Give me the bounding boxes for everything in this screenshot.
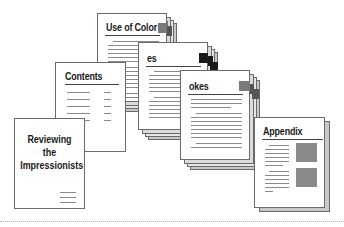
title-underline bbox=[105, 35, 160, 36]
page-title: Use of Color bbox=[106, 21, 157, 33]
text-line bbox=[269, 171, 289, 172]
toc-entry bbox=[67, 113, 90, 114]
page-chapter-okes: okes bbox=[180, 70, 250, 160]
page-title: es bbox=[147, 52, 157, 64]
text-line bbox=[196, 113, 242, 114]
image-placeholder bbox=[296, 168, 317, 187]
text-line bbox=[60, 202, 76, 203]
section-tab bbox=[239, 81, 250, 91]
text-line bbox=[196, 143, 242, 144]
text-line bbox=[60, 197, 76, 198]
text-line bbox=[60, 192, 76, 193]
text-line bbox=[265, 161, 289, 162]
text-line bbox=[191, 125, 242, 126]
page-title: Contents bbox=[65, 70, 102, 82]
image-placeholder bbox=[296, 143, 317, 162]
text-line bbox=[191, 99, 242, 100]
text-line bbox=[265, 149, 289, 150]
page-cover: Reviewing the Impressionists bbox=[14, 118, 85, 209]
text-line bbox=[265, 165, 283, 166]
title-underline bbox=[188, 94, 243, 95]
toc-page-number bbox=[104, 113, 111, 114]
text-line bbox=[191, 107, 231, 108]
toc-entry bbox=[67, 106, 90, 107]
text-line bbox=[191, 117, 242, 118]
page-title: okes bbox=[189, 80, 209, 92]
toc-entry bbox=[67, 92, 90, 93]
text-line bbox=[265, 175, 289, 176]
text-line bbox=[191, 137, 242, 138]
toc-page-number bbox=[104, 120, 111, 121]
title-underline bbox=[146, 66, 201, 67]
text-line bbox=[265, 153, 289, 154]
text-line bbox=[265, 157, 289, 158]
title-underline bbox=[262, 139, 323, 140]
text-line bbox=[191, 121, 242, 122]
text-line bbox=[265, 191, 273, 192]
text-line bbox=[191, 133, 242, 134]
title-underline bbox=[65, 84, 119, 85]
text-line bbox=[265, 187, 289, 188]
page-appendix: Appendix bbox=[254, 117, 325, 208]
section-tab bbox=[199, 53, 208, 63]
dotted-separator bbox=[0, 221, 344, 222]
cover-title-line: the bbox=[20, 146, 79, 159]
toc-page-number bbox=[104, 99, 111, 100]
toc-page-number bbox=[104, 106, 111, 107]
cover-title-line: Impressionists bbox=[20, 159, 79, 172]
text-line bbox=[265, 179, 289, 180]
cover-title-line: Reviewing bbox=[20, 133, 79, 146]
text-line bbox=[191, 147, 242, 148]
toc-entry bbox=[67, 99, 90, 100]
page-title: Appendix bbox=[263, 125, 302, 137]
text-line bbox=[191, 129, 242, 130]
section-tab bbox=[252, 89, 259, 99]
text-line bbox=[269, 145, 289, 146]
text-line bbox=[191, 103, 242, 104]
text-line bbox=[265, 183, 289, 184]
toc-page-number bbox=[104, 92, 111, 93]
section-tab bbox=[158, 23, 167, 33]
